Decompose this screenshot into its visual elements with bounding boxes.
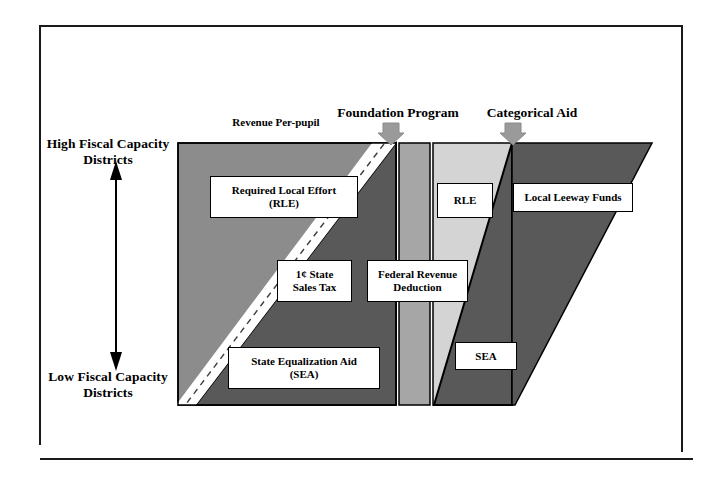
callout-federal-revenue-deduction: Federal Revenue Deduction xyxy=(367,260,468,302)
callout-fed-rev-line1: Federal Revenue xyxy=(378,268,457,280)
callout-required-local-effort: Required Local Effort (RLE) xyxy=(210,176,358,218)
school-finance-diagram xyxy=(0,0,721,478)
axis-label-high-capacity: High Fiscal Capacity Districts xyxy=(28,136,188,167)
axis-label-low-capacity: Low Fiscal Capacity Districts xyxy=(28,369,188,400)
axis-label-high-line2: Districts xyxy=(83,152,133,167)
callout-sea-line2: (SEA) xyxy=(290,368,319,380)
callout-rle-line1: Required Local Effort xyxy=(232,184,336,196)
callout-sales-tax-line1: 1¢ State xyxy=(296,268,334,280)
categorical-aid-arrow xyxy=(500,123,526,145)
callout-sea-line1: State Equalization Aid xyxy=(251,355,357,367)
axis-label-low-line1: Low Fiscal Capacity xyxy=(48,369,168,384)
axis-label-high-line1: High Fiscal Capacity xyxy=(47,136,170,151)
axis-label-low-line2: Districts xyxy=(83,385,133,400)
callout-sales-tax-line2: Sales Tax xyxy=(293,281,337,293)
callout-rle-short: RLE xyxy=(437,183,493,218)
foundation-program-arrow xyxy=(378,123,404,145)
callout-state-equalization-aid: State Equalization Aid (SEA) xyxy=(228,347,380,389)
callout-rle-line2: (RLE) xyxy=(269,197,299,209)
callout-local-leeway-funds: Local Leeway Funds xyxy=(513,183,633,212)
caption-foundation-program: Foundation Program xyxy=(318,105,478,121)
fiscal-capacity-axis-arrow xyxy=(110,161,122,371)
callout-sea-short: SEA xyxy=(455,342,517,370)
caption-categorical-aid: Categorical Aid xyxy=(462,105,602,121)
callout-fed-rev-line2: Deduction xyxy=(393,281,441,293)
callout-state-sales-tax: 1¢ State Sales Tax xyxy=(277,260,352,302)
figure-canvas: High Fiscal Capacity Districts Low Fisca… xyxy=(0,0,721,478)
